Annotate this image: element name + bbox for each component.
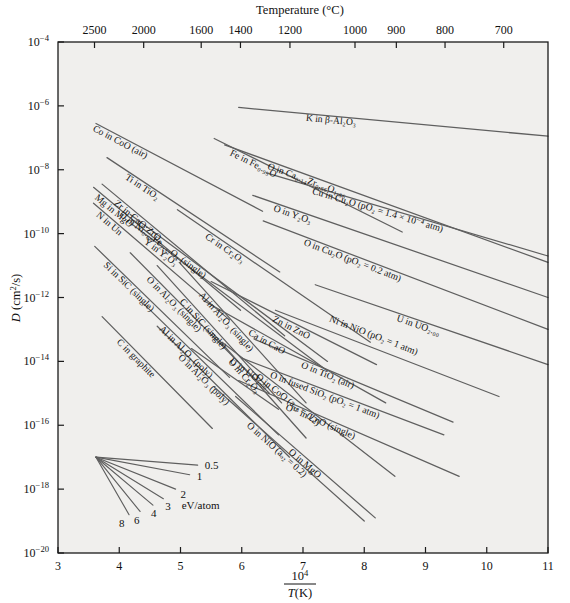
top-tick-label: 1000: [343, 23, 367, 37]
activation-energy-label: 1: [197, 470, 203, 482]
activation-energy-label: 8: [119, 517, 125, 529]
activation-energy-label: 0.5: [205, 459, 219, 471]
top-tick-label: 1600: [189, 23, 213, 37]
y-axis-title: D (cm2/s): [8, 274, 23, 323]
x-tick-label: 10: [481, 559, 493, 573]
top-tick-label: 800: [436, 23, 454, 37]
top-tick-label: 900: [387, 23, 405, 37]
top-tick-label: 2500: [83, 23, 107, 37]
x-tick-label: 9: [423, 559, 429, 573]
x-tick-label: 8: [361, 559, 367, 573]
top-tick-label: 700: [495, 23, 513, 37]
x-tick-label: 3: [55, 559, 61, 573]
activation-energy-units-label: eV/atom: [182, 499, 220, 511]
x-tick-label: 11: [542, 559, 554, 573]
activation-energy-label: 3: [165, 500, 171, 512]
diffusion-arrhenius-chart: 0.5123468eV/atom K in β-Al₂O₃Co in CoO (…: [0, 0, 570, 603]
top-tick-label: 2000: [132, 23, 156, 37]
x-tick-label: 6: [239, 559, 245, 573]
activation-energy-label: 6: [134, 514, 140, 526]
x-axis-title-denominator: T(K): [288, 586, 312, 600]
chart-canvas: 0.5123468eV/atom K in β-Al₂O₃Co in CoO (…: [0, 0, 570, 603]
top-tick-label: 1200: [278, 23, 302, 37]
activation-energy-label: 4: [151, 507, 157, 519]
top-axis-title: Temperature (°C): [256, 3, 344, 17]
top-tick-label: 1400: [228, 23, 252, 37]
x-tick-label: 5: [178, 559, 184, 573]
x-tick-label: 4: [116, 559, 122, 573]
